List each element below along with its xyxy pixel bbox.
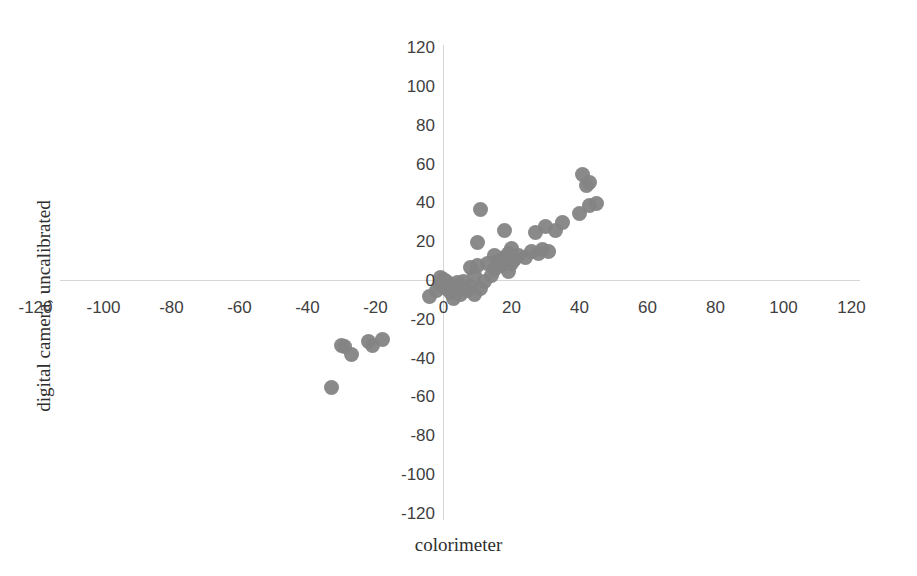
x-tick-label: -60 bbox=[227, 298, 252, 318]
x-tick-label: -100 bbox=[86, 298, 120, 318]
y-axis-title: digital camera, uncalibrated bbox=[33, 176, 55, 436]
x-tick-label: 60 bbox=[638, 298, 657, 318]
y-tick-label: 60 bbox=[416, 155, 435, 175]
x-tick-label: 40 bbox=[570, 298, 589, 318]
y-axis-tick-labels: 120100806040200-20-40-60-80-100-120 bbox=[340, 0, 435, 576]
x-tick-label: -40 bbox=[295, 298, 320, 318]
y-tick-label: 80 bbox=[416, 116, 435, 136]
x-tick-label: -80 bbox=[159, 298, 184, 318]
y-tick-label: 20 bbox=[416, 232, 435, 252]
y-tick-label: 0 bbox=[426, 271, 435, 291]
x-axis-title: colorimeter bbox=[0, 534, 917, 556]
x-tick-label: 120 bbox=[837, 298, 865, 318]
data-point bbox=[589, 196, 604, 211]
data-point bbox=[473, 202, 488, 217]
y-tick-label: -20 bbox=[410, 310, 435, 330]
x-tick-label: 20 bbox=[502, 298, 521, 318]
x-tick-label: 80 bbox=[706, 298, 725, 318]
x-tick-label: 0 bbox=[439, 298, 448, 318]
data-point bbox=[541, 244, 556, 259]
plot-area bbox=[0, 0, 917, 576]
y-tick-label: 40 bbox=[416, 193, 435, 213]
data-point bbox=[582, 175, 597, 190]
y-tick-label: -120 bbox=[401, 504, 435, 524]
y-tick-label: -80 bbox=[410, 426, 435, 446]
x-tick-label: 100 bbox=[769, 298, 797, 318]
y-tick-label: -40 bbox=[410, 349, 435, 369]
data-point bbox=[555, 215, 570, 230]
y-tick-label: -60 bbox=[410, 387, 435, 407]
data-point bbox=[470, 235, 485, 250]
y-tick-label: 120 bbox=[407, 38, 435, 58]
scatter-chart: -120-100-80-60-40-20020406080100120 1201… bbox=[0, 0, 917, 576]
y-tick-label: 100 bbox=[407, 77, 435, 97]
data-point bbox=[497, 223, 512, 238]
y-tick-label: -100 bbox=[401, 465, 435, 485]
data-point bbox=[324, 380, 339, 395]
